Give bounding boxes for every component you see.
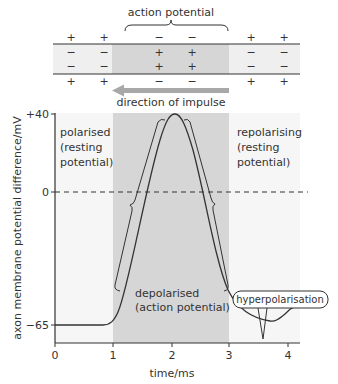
charge-sign: − — [246, 60, 255, 73]
charge-sign: − — [99, 46, 108, 59]
charge-sign: + — [154, 60, 163, 73]
potential-graph: +40 0 −65 0 1 2 3 4 time/ms axon membran… — [11, 108, 328, 380]
charge-sign: − — [154, 31, 163, 44]
direction-arrow-icon — [112, 85, 229, 97]
x-tick-label: 2 — [169, 349, 176, 362]
charge-sign: + — [187, 46, 196, 59]
charge-sign: − — [279, 60, 288, 73]
direction-label: direction of impulse — [116, 96, 225, 109]
x-axis-label: time/ms — [149, 367, 194, 380]
charge-sign: + — [66, 31, 75, 44]
charge-sign: − — [154, 75, 163, 88]
charge-sign: + — [246, 75, 255, 88]
charge-sign: − — [187, 75, 196, 88]
charge-sign: + — [99, 75, 108, 88]
action-potential-brace — [125, 20, 228, 31]
x-tick-label: 4 — [285, 349, 292, 362]
membrane-diagram: action potential + + − − + + − − + + − −… — [53, 6, 300, 109]
y-tick-label: +40 — [26, 108, 49, 121]
action-potential-diagram: action potential + + − − + + − − + + − −… — [0, 0, 338, 384]
charge-sign: + — [99, 31, 108, 44]
charge-sign: − — [187, 31, 196, 44]
y-tick-label: −65 — [26, 319, 49, 332]
charge-sign: − — [66, 60, 75, 73]
y-tick-label: 0 — [42, 186, 49, 199]
charge-sign: + — [154, 46, 163, 59]
charge-sign: − — [279, 46, 288, 59]
x-tick-label: 0 — [52, 349, 59, 362]
action-potential-region — [112, 44, 229, 74]
action-potential-title: action potential — [128, 6, 214, 19]
charge-sign: − — [246, 46, 255, 59]
y-axis-label: axon membrane potential difference/mV — [11, 116, 24, 340]
x-tick-label: 1 — [110, 349, 117, 362]
charge-sign: − — [66, 46, 75, 59]
charge-sign: + — [279, 75, 288, 88]
x-tick-label: 3 — [226, 349, 233, 362]
charge-sign: + — [246, 31, 255, 44]
charge-sign: + — [279, 31, 288, 44]
charge-sign: + — [187, 60, 196, 73]
charge-sign: + — [66, 75, 75, 88]
hyperpolarisation-label: hyperpolarisation — [236, 294, 324, 305]
charge-sign: − — [99, 60, 108, 73]
